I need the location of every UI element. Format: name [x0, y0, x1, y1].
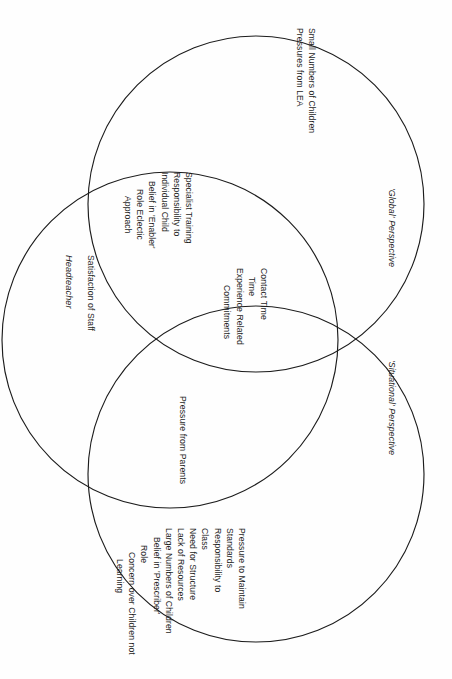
situational-only-line-9: Role	[138, 528, 150, 655]
label-global-perspective: 'Global' Perspective	[386, 188, 398, 267]
center-line-1: Contact Time	[258, 268, 270, 345]
region-headteacher-global-text: Specialist Training Responsibility to In…	[122, 172, 195, 249]
venn-diagram-canvas: Small Numbers of Children Pressures from…	[0, 0, 452, 679]
situational-only-line-8: Belief in 'Prescriber'	[150, 528, 162, 655]
ht-situational-line-1: Pressure from Parents	[176, 396, 188, 484]
region-center-text: Contact Time Time Experience Related Com…	[221, 268, 270, 345]
global-only-line-1: Small Numbers of Children	[305, 28, 317, 133]
situational-only-line-4: Class	[199, 528, 211, 655]
situational-only-line-6: Lack of Resources	[175, 528, 187, 655]
global-only-line-2: Pressures from LEA	[293, 28, 305, 133]
situational-only-line-2: Standards	[224, 528, 236, 655]
situational-only-line-11: Learning	[114, 528, 126, 655]
label-situational-perspective: 'Situational' Perspective	[386, 360, 398, 455]
headteacher-title-text: Headteacher	[62, 255, 75, 309]
ht-global-line-6: Approach	[122, 172, 134, 249]
center-line-4: Commitments	[221, 268, 233, 345]
region-situational-only-text: Pressure to Maintain Standards Responsib…	[114, 528, 248, 655]
center-line-2: Time	[246, 268, 258, 345]
ht-global-line-2: Responsibility to	[171, 172, 183, 249]
situational-only-line-5: Need for Structure	[187, 528, 199, 655]
situational-only-line-10: Concern over Children not	[126, 528, 138, 655]
global-perspective-text: 'Global' Perspective	[386, 188, 398, 267]
center-line-3: Experience Related	[233, 268, 245, 345]
situational-perspective-text: 'Situational' Perspective	[386, 360, 398, 455]
region-headteacher-situational-text: Pressure from Parents	[176, 396, 188, 484]
situational-only-line-1: Pressure to Maintain	[236, 528, 248, 655]
ht-global-line-3: Individual Child	[158, 172, 170, 249]
headteacher-only-line-1: Satisfaction of Staff	[84, 255, 96, 331]
situational-only-line-3: Responsibility to	[211, 528, 223, 655]
region-global-only-text: Small Numbers of Children Pressures from…	[293, 28, 317, 133]
ht-global-line-4: Belief in 'Enabler'	[146, 172, 158, 249]
ht-global-line-1: Specialist Training	[183, 172, 195, 249]
situational-only-line-7: Large Numbers of Children	[163, 528, 175, 655]
ht-global-line-5: Role Eclectic	[134, 172, 146, 249]
region-headteacher-only-text: Satisfaction of Staff	[84, 255, 96, 331]
label-headteacher-title: Headteacher	[62, 255, 75, 309]
